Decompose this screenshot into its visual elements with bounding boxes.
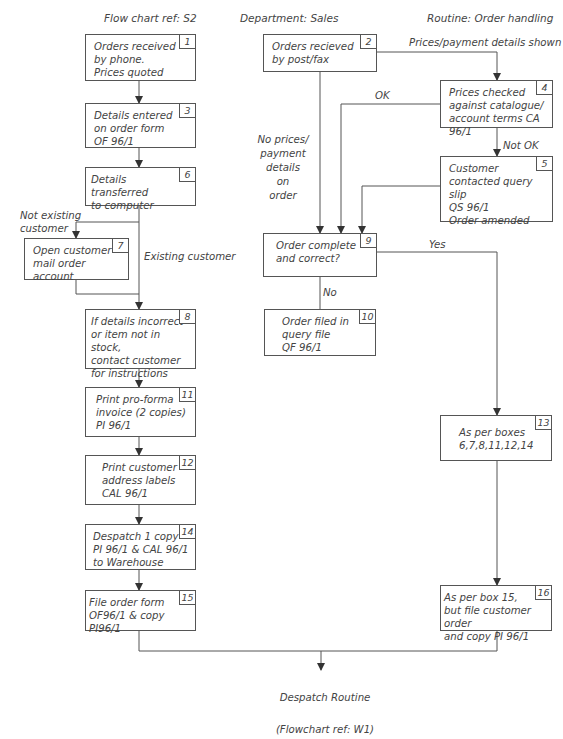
box-number: 7 xyxy=(112,238,129,253)
box-text: Order complete and correct? xyxy=(276,239,358,265)
box-text: Details transferred to computer xyxy=(91,173,177,212)
box-2: Orders recieved by post/fax 2 xyxy=(263,34,377,72)
label-yes: Yes xyxy=(429,238,446,252)
box-5: Customer contacted query slip QS 96/1 Or… xyxy=(440,156,553,222)
box-3: Details entered on order form OF 96/1 3 xyxy=(85,103,196,148)
box-6: Details transferred to computer 6 xyxy=(85,167,196,206)
box-text: Print pro-forma invoice (2 copies) PI 96… xyxy=(96,393,191,432)
box-number: 1 xyxy=(179,34,196,49)
box-9: Order complete and correct? 9 xyxy=(263,233,377,277)
box-10: Order filed in query file QF 96/1 10 xyxy=(264,309,376,356)
routine-label: Routine: Order handling xyxy=(427,12,553,24)
box-number: 14 xyxy=(179,524,196,539)
department-label: Department: Sales xyxy=(240,12,338,24)
box-number: 4 xyxy=(536,80,553,95)
box-number: 13 xyxy=(535,415,552,430)
box-text: Print customer address labels CAL 96/1 xyxy=(102,461,177,500)
box-8: If details incorrect or item not in stoc… xyxy=(85,309,196,369)
label-ok: OK xyxy=(375,89,390,103)
box-text: Orders received by phone. Prices quoted xyxy=(94,40,177,79)
box-number: 2 xyxy=(360,34,377,49)
box-15: File order form OF96/1 & copy PI96/1 15 xyxy=(85,590,196,631)
box-11: Print pro-forma invoice (2 copies) PI 96… xyxy=(85,387,196,437)
box-1: Orders received by phone. Prices quoted … xyxy=(85,34,196,81)
box-text: Order filed in query file QF 96/1 xyxy=(282,315,357,354)
box-text: File order form OF96/1 & copy PI96/1 xyxy=(89,596,193,635)
flowchart-ref: Flow chart ref: S2 xyxy=(104,12,197,24)
box-13: As per boxes 6,7,8,11,12,14 13 xyxy=(440,415,552,461)
box-text: Open customer mail order account xyxy=(33,244,124,283)
box-text: Prices checked against catalogue/ accoun… xyxy=(449,86,548,138)
label-prices-shown: Prices/payment details shown xyxy=(409,36,561,50)
box-14: Despatch 1 copy PI 96/1 & CAL 96/1 to Wa… xyxy=(85,524,196,570)
box-number: 3 xyxy=(179,103,196,118)
label-no: No xyxy=(323,286,337,300)
box-16: As per box 15, but file customer order a… xyxy=(440,585,552,631)
box-number: 9 xyxy=(360,233,377,248)
box-text: Orders recieved by post/fax xyxy=(272,40,358,66)
footer-line-2: (Flowchart ref: W1) xyxy=(255,722,395,738)
box-text: Despatch 1 copy PI 96/1 & CAL 96/1 to Wa… xyxy=(93,530,193,569)
box-text: As per boxes 6,7,8,11,12,14 xyxy=(459,426,533,452)
footer-despatch-routine: Despatch Routine (Flowchart ref: W1) xyxy=(255,674,395,739)
box-number: 11 xyxy=(179,387,196,402)
box-12: Print customer address labels CAL 96/1 1… xyxy=(85,455,196,505)
label-not-ok: Not OK xyxy=(503,139,539,153)
box-4: Prices checked against catalogue/ accoun… xyxy=(440,80,553,128)
box-text: Details entered on order form OF 96/1 xyxy=(94,109,177,148)
box-number: 8 xyxy=(179,309,196,324)
box-number: 12 xyxy=(179,455,196,470)
box-number: 15 xyxy=(179,590,196,605)
label-not-existing-customer: Not existing customer xyxy=(20,209,81,235)
box-text: If details incorrect or item not in stoc… xyxy=(91,315,193,380)
box-number: 5 xyxy=(536,156,553,171)
box-number: 10 xyxy=(359,309,376,324)
footer-line-1: Despatch Routine xyxy=(255,690,395,706)
box-7: Open customer mail order account 7 xyxy=(24,238,129,280)
label-no-prices: No prices/ payment details on order xyxy=(255,133,311,203)
label-existing-customer: Existing customer xyxy=(144,250,236,264)
box-number: 16 xyxy=(535,585,552,600)
box-text: Customer contacted query slip QS 96/1 Or… xyxy=(449,162,550,227)
box-number: 6 xyxy=(179,167,196,182)
